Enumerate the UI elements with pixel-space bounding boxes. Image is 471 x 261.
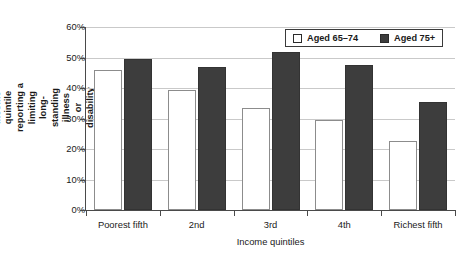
x-axis-category-label: Poorest fifth xyxy=(86,219,160,230)
y-axis-title: Proportion in each household income quin… xyxy=(0,0,52,215)
bar-aged-65-74 xyxy=(242,108,270,210)
x-axis-tick-mark xyxy=(234,211,235,216)
bar-group xyxy=(94,27,152,210)
bar-aged-65-74 xyxy=(168,90,196,210)
bar-aged-65-74 xyxy=(315,120,343,210)
x-axis-category-label: 2nd xyxy=(160,219,234,230)
bar-aged-75-plus xyxy=(345,65,373,210)
bar-chart: Proportion in each household income quin… xyxy=(0,0,471,261)
y-axis-tick-label: 50% xyxy=(53,53,85,62)
legend-swatch-icon xyxy=(293,34,302,43)
y-axis-tick-label: 20% xyxy=(53,144,85,153)
plot-area xyxy=(86,27,455,210)
bar-aged-75-plus xyxy=(272,52,300,210)
x-axis-category-label: Richest fifth xyxy=(381,219,455,230)
x-axis-tick-mark xyxy=(381,211,382,216)
bar-aged-65-74 xyxy=(94,70,122,210)
legend-label: Aged 75+ xyxy=(394,33,435,43)
x-axis-tick-mark xyxy=(160,211,161,216)
legend-entry: Aged 75+ xyxy=(380,33,435,43)
x-axis-tick-mark xyxy=(86,211,87,216)
x-axis-tick-mark xyxy=(307,211,308,216)
bar-aged-65-74 xyxy=(389,141,417,210)
bar-group xyxy=(389,27,447,210)
bar-group xyxy=(242,27,300,210)
legend-entry: Aged 65–74 xyxy=(293,33,358,43)
x-axis-category-label: 3rd xyxy=(234,219,308,230)
y-axis-tick-label: 40% xyxy=(53,83,85,92)
y-axis-tick-label: 60% xyxy=(53,22,85,31)
legend-label: Aged 65–74 xyxy=(307,33,358,43)
bar-aged-75-plus xyxy=(124,59,152,210)
bar-group xyxy=(315,27,373,210)
y-axis-tick-label: 0% xyxy=(53,205,85,214)
x-axis-line xyxy=(85,210,456,211)
x-axis-category-label: 4th xyxy=(307,219,381,230)
y-axis-tick-labels: 0%10%20%30%40%50%60% xyxy=(48,0,85,261)
bar-aged-75-plus xyxy=(198,67,226,210)
x-axis-tick-mark xyxy=(455,211,456,216)
bar-group xyxy=(168,27,226,210)
x-axis-title: Income quintiles xyxy=(86,236,455,247)
legend-swatch-icon xyxy=(380,34,389,43)
chart-legend: Aged 65–74Aged 75+ xyxy=(285,29,443,47)
bar-aged-75-plus xyxy=(419,102,447,210)
y-axis-tick-label: 10% xyxy=(53,175,85,184)
y-axis-line xyxy=(85,27,86,211)
y-axis-tick-label: 30% xyxy=(53,114,85,123)
